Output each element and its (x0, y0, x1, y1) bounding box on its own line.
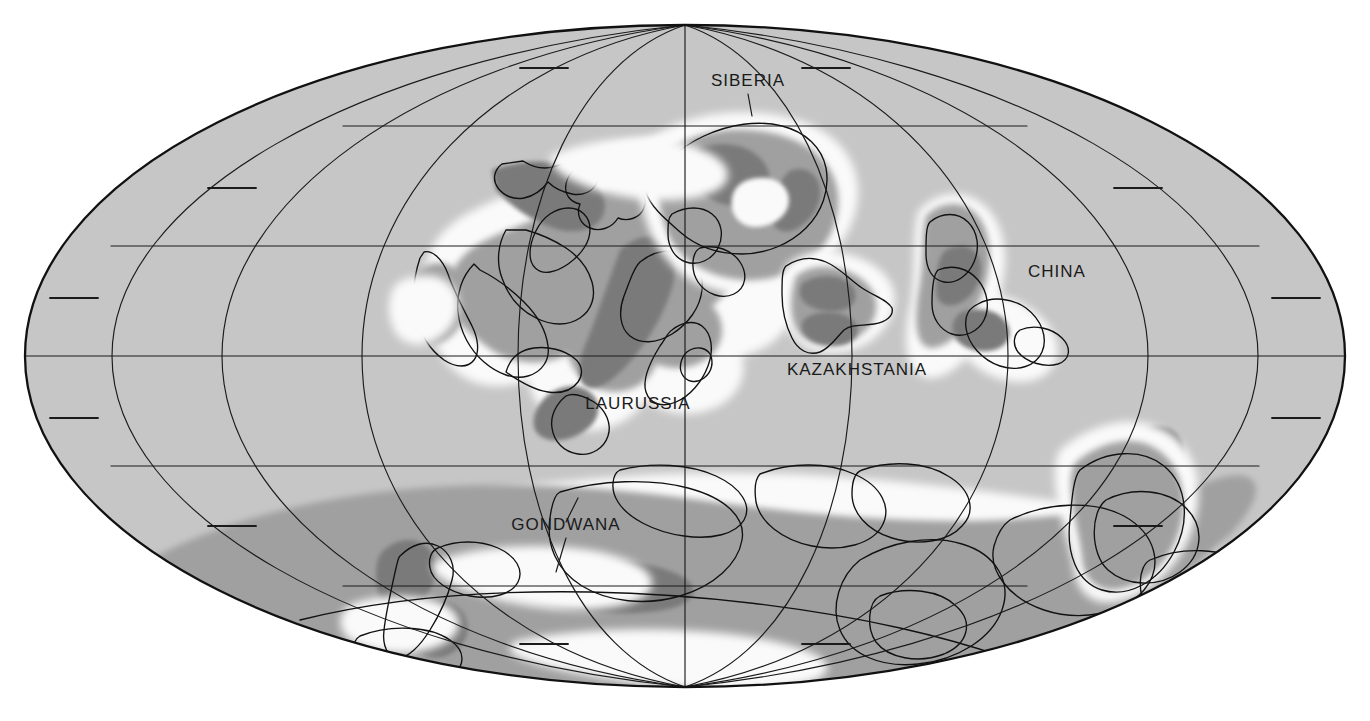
gondwana-lowland-far-sw (69, 560, 175, 619)
label-siberia: SIBERIA (711, 71, 785, 90)
label-china: CHINA (1028, 262, 1086, 281)
world-map-canvas: SIBERIA CHINA KAZAKHSTANIA LAURUSSIA GON… (0, 0, 1370, 721)
label-kazakhstania: KAZAKHSTANIA (787, 360, 927, 379)
paleogeographic-map-figure: SIBERIA CHINA KAZAKHSTANIA LAURUSSIA GON… (0, 0, 1370, 721)
label-gondwana: GONDWANA (511, 515, 620, 534)
gondwana-mountain-south (1007, 636, 1150, 686)
gondwana-coastline-far-sw (77, 566, 180, 623)
label-laurussia: LAURUSSIA (585, 394, 690, 413)
